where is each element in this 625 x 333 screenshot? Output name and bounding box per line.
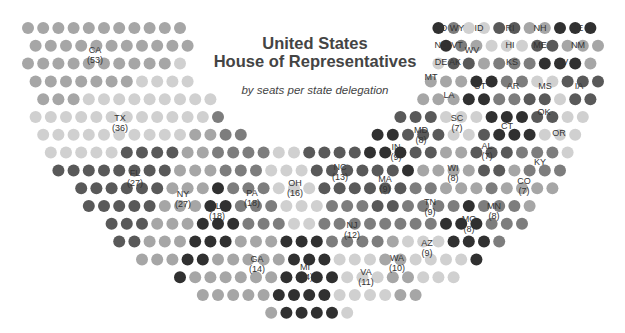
seat-dot — [113, 236, 125, 248]
seat-dot — [296, 164, 308, 176]
seat-dot — [250, 164, 262, 176]
seat-dot — [326, 271, 338, 283]
seat-dot — [60, 40, 72, 52]
seat-dot — [280, 164, 292, 176]
seat-dot — [425, 147, 437, 159]
seat-dot — [516, 40, 528, 52]
seat-dot — [37, 93, 49, 105]
seat-dot — [159, 236, 171, 248]
seat-dot — [166, 75, 178, 87]
seat-dot — [288, 147, 300, 159]
seat-dot — [75, 147, 87, 159]
seat-dot — [417, 271, 429, 283]
seat-count: (8) — [414, 135, 428, 145]
seat-dot — [508, 93, 520, 105]
seat-dot — [265, 271, 277, 283]
seat-dot — [128, 236, 140, 248]
seat-dot — [30, 75, 42, 87]
seat-dot — [410, 253, 422, 265]
seat-dot — [121, 147, 133, 159]
seat-dot — [113, 22, 125, 34]
seat-dot — [539, 93, 551, 105]
seat-count: (7) — [481, 151, 492, 161]
seat-dot — [182, 75, 194, 87]
seat-dot — [204, 271, 216, 283]
state-label-pa: PA(18) — [244, 188, 260, 208]
seat-dot — [493, 93, 505, 105]
state-code: MO — [462, 214, 477, 224]
state-code: TN — [424, 197, 436, 207]
seat-dot — [569, 58, 581, 70]
state-label-ga: GA(14) — [249, 254, 265, 274]
seat-dot — [379, 218, 391, 230]
seat-dot — [182, 147, 194, 159]
state-label-mt: MT — [425, 72, 438, 82]
seat-dot — [280, 236, 292, 248]
seat-dot — [98, 22, 110, 34]
seat-dot — [189, 129, 201, 141]
seat-dot — [235, 129, 247, 141]
seat-dot — [30, 111, 42, 123]
seat-dot — [364, 253, 376, 265]
seat-dot — [68, 58, 80, 70]
chart-title: United States House of Representatives — [200, 34, 430, 70]
seat-dot — [334, 289, 346, 301]
seat-dot — [372, 236, 384, 248]
seat-dot — [326, 236, 338, 248]
state-label-ny: NY(27) — [175, 189, 191, 209]
state-code: IN — [391, 142, 402, 152]
state-label-id: ID — [475, 23, 484, 33]
seat-dot — [83, 164, 95, 176]
seat-dot — [463, 200, 475, 212]
seat-dot — [501, 182, 513, 194]
seat-dot — [273, 218, 285, 230]
seat-dot — [22, 58, 34, 70]
seat-dot — [486, 40, 498, 52]
seat-dot — [68, 164, 80, 176]
seat-dot — [493, 164, 505, 176]
state-code: SD — [435, 23, 448, 33]
seat-dot — [60, 147, 72, 159]
seat-dot — [227, 182, 239, 194]
seat-dot — [151, 40, 163, 52]
seat-dot — [60, 75, 72, 87]
seat-dot — [45, 111, 57, 123]
seat-count: (8) — [462, 224, 477, 234]
seat-dot — [410, 182, 422, 194]
seat-dot — [106, 40, 118, 52]
state-label-tx: TX(36) — [112, 113, 128, 133]
seat-dot — [227, 147, 239, 159]
seat-dot — [212, 289, 224, 301]
seat-dot — [204, 236, 216, 248]
seat-dot — [478, 58, 490, 70]
seat-dot — [470, 253, 482, 265]
seat-dot — [128, 200, 140, 212]
state-code: NE — [571, 23, 584, 33]
seat-dot — [296, 200, 308, 212]
seat-dot — [197, 182, 209, 194]
seat-dot — [98, 164, 110, 176]
seat-count: (18) — [244, 198, 260, 208]
seat-dot — [189, 164, 201, 176]
seat-dot — [425, 182, 437, 194]
seat-dot — [592, 75, 604, 87]
seat-dot — [37, 129, 49, 141]
seat-dot — [98, 200, 110, 212]
state-label-hi: HI — [506, 40, 515, 50]
seat-dot — [501, 218, 513, 230]
seat-dot — [546, 40, 558, 52]
seat-dot — [136, 218, 148, 230]
seat-dot — [394, 218, 406, 230]
state-label-co: CO(7) — [517, 176, 531, 196]
seat-dot — [106, 75, 118, 87]
seat-dot — [311, 164, 323, 176]
seat-dot — [417, 164, 429, 176]
seat-dot — [151, 253, 163, 265]
seat-dot — [83, 93, 95, 105]
state-label-ky: KY — [534, 157, 546, 167]
seat-dot — [106, 182, 118, 194]
seat-dot — [440, 253, 452, 265]
seat-dot — [121, 40, 133, 52]
state-code: NM — [571, 40, 585, 50]
seat-dot — [356, 200, 368, 212]
